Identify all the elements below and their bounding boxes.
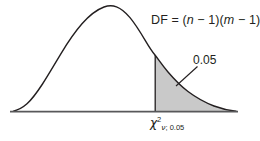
df-formula-var-n: n bbox=[187, 13, 194, 27]
critical-value-label: χ2ν; 0.05 bbox=[150, 117, 184, 129]
chi-square-figure: DF = (n − 1)(m − 1) 0.05 χ2ν; 0.05 bbox=[0, 0, 260, 141]
tail-label-leader-line bbox=[176, 67, 198, 87]
df-formula-suffix: − 1) bbox=[234, 13, 260, 27]
df-formula-var-m: m bbox=[224, 13, 235, 27]
df-formula-mid: − 1)( bbox=[194, 13, 224, 27]
chi-subscript: ν; 0.05 bbox=[161, 123, 184, 132]
tail-area-label: 0.05 bbox=[193, 54, 216, 66]
chi-subscript-rest: ; 0.05 bbox=[165, 123, 184, 132]
df-formula-prefix: DF = ( bbox=[151, 13, 187, 27]
df-formula-label: DF = (n − 1)(m − 1) bbox=[151, 14, 260, 27]
